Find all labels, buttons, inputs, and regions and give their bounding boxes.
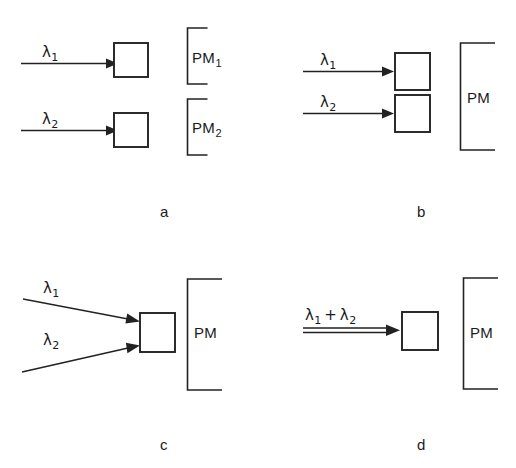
panel-a-beam2-arrow <box>21 126 118 136</box>
lambda-glyph: λ <box>42 43 51 61</box>
panel-c-beam2-arrow <box>22 343 140 372</box>
lambda-glyph: λ <box>305 306 314 324</box>
lambda-glyph: λ <box>43 279 52 297</box>
pm-text: PM <box>192 119 215 136</box>
panel-d-letter: d <box>417 437 425 452</box>
panel-d-detector-label: PM <box>470 325 493 340</box>
panel-b-beam-2-label: λ2 <box>320 95 336 113</box>
panel-d-box <box>402 312 438 350</box>
figure-canvas: λ1 λ2 PM1 PM2 a λ1 λ2 PM b λ1 λ2 PM c λ1… <box>0 0 516 468</box>
panel-a-box-2 <box>114 113 148 147</box>
lambda-subscript-2: 2 <box>349 314 356 327</box>
panel-c-box <box>140 313 175 352</box>
panel-b-beam-1-label: λ1 <box>320 53 336 71</box>
panel-c-beam1-arrow <box>23 299 140 323</box>
panel-b-box-2 <box>395 95 430 132</box>
panel-a-detector-1-label: PM1 <box>192 50 222 69</box>
panel-d-graphics <box>303 278 498 389</box>
panel-c-detector-label: PM <box>194 325 217 340</box>
panel-a-beam-2-label: λ2 <box>42 112 58 130</box>
panel-c-letter: c <box>160 437 168 452</box>
lambda-subscript: 1 <box>52 287 59 300</box>
lambda-subscript: 1 <box>329 59 336 72</box>
panel-c-beam-1-label: λ1 <box>43 281 59 299</box>
panel-b-beam1-arrow <box>303 67 394 77</box>
lambda-subscript: 2 <box>52 339 59 352</box>
panel-d-beam-label: λ1+λ2 <box>305 308 356 326</box>
panel-b-detector-label: PM <box>467 90 490 105</box>
panel-b-beam2-arrow <box>303 109 394 119</box>
lambda-subscript: 2 <box>51 118 58 131</box>
lambda-glyph: λ <box>320 51 329 69</box>
figure-vector-layer <box>0 0 516 468</box>
lambda-glyph: λ <box>320 93 329 111</box>
lambda-subscript: 2 <box>329 101 336 114</box>
pm-text: PM <box>192 49 215 66</box>
lambda-subscript: 1 <box>51 51 58 64</box>
plus-sign: + <box>321 306 340 324</box>
lambda-glyph: λ <box>43 331 52 349</box>
lambda-glyph-2: λ <box>340 306 349 324</box>
panel-a-beam-1-label: λ1 <box>42 45 58 63</box>
pm-subscript: 2 <box>215 127 222 139</box>
lambda-glyph: λ <box>42 110 51 128</box>
panel-b-letter: b <box>417 204 425 219</box>
panel-b-box-1 <box>395 53 430 90</box>
panel-a-beam1-arrow <box>21 59 118 69</box>
panel-a-detector-2-label: PM2 <box>192 120 222 139</box>
panel-c-beam-2-label: λ2 <box>43 333 59 351</box>
pm-subscript: 1 <box>215 57 222 69</box>
panel-a-letter: a <box>160 204 168 219</box>
panel-a-box-1 <box>114 43 148 77</box>
